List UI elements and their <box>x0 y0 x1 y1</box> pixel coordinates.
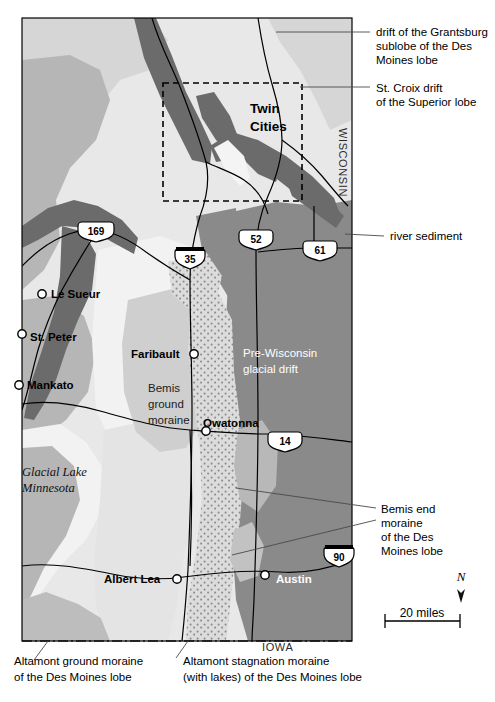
callout-line: of the Des Moines lobe <box>14 671 132 683</box>
city-label-line: Twin <box>250 101 280 116</box>
callout-line: sublobe of the Des <box>376 40 472 52</box>
city-marker-faribault[interactable] <box>190 350 198 358</box>
shield-number: 52 <box>250 234 262 245</box>
city-marker-le-sueur[interactable] <box>38 290 46 298</box>
callout-line: St. Croix drift <box>376 82 443 94</box>
unit-label-line: moraine <box>148 414 190 426</box>
shield-number: 35 <box>184 254 196 265</box>
unit-label-line: Minnesota <box>21 481 75 495</box>
city-label-st-peter: St. Peter <box>30 331 77 343</box>
shield-number: 14 <box>279 436 291 447</box>
city-marker-austin[interactable] <box>261 571 269 579</box>
city-label-mankato: Mankato <box>27 379 74 391</box>
state-label-iowa: IOWA <box>262 641 293 653</box>
shield-number: 61 <box>314 245 326 256</box>
callout-line: moraine <box>381 517 423 529</box>
callout-line: of the Superior lobe <box>376 96 476 108</box>
city-label-austin: Austin <box>276 573 312 585</box>
shield-number: 169 <box>88 226 105 237</box>
city-marker-mankato[interactable] <box>15 381 23 389</box>
callout-line: Altamont ground moraine <box>14 655 143 667</box>
city-label-faribault: Faribault <box>131 348 180 360</box>
city-marker-albert-lea[interactable] <box>173 575 181 583</box>
unit-label-line: Glacial Lake <box>22 465 87 479</box>
city-marker-st-peter[interactable] <box>18 330 26 338</box>
figure-root: drift of the Grantsburg sublobe of the D… <box>0 0 495 702</box>
callout-line: Moines lobe <box>381 545 443 557</box>
legend-callout-river-sediment: river sediment <box>390 230 463 242</box>
shield-number: 90 <box>333 552 345 563</box>
unit-label-line: Bemis <box>148 382 180 394</box>
city-label-le-sueur: Le Sueur <box>51 288 101 300</box>
callout-line: Moines lobe <box>376 54 438 66</box>
city-label-albert-lea: Albert Lea <box>104 573 161 585</box>
interstate-shield-top <box>176 247 204 251</box>
callout-line: (with lakes) of the Des Moines lobe <box>183 671 362 683</box>
city-label-line: Cities <box>250 119 287 134</box>
callout-line: river sediment <box>390 230 463 242</box>
unit-label-line: glacial drift <box>243 363 299 375</box>
callout-line: of the Des <box>381 531 434 543</box>
north-arrow-label: N <box>456 569 467 584</box>
interstate-shield-top <box>325 545 353 549</box>
unit-label-line: ground <box>148 398 184 410</box>
callout-line: Bemis end <box>381 503 435 515</box>
state-label-wisconsin: WISCONSIN <box>337 128 349 197</box>
glacial-geology-map: drift of the Grantsburg sublobe of the D… <box>0 0 495 702</box>
callout-line: Altamont stagnation moraine <box>183 655 329 667</box>
scale-bar-label: 20 miles <box>400 606 445 620</box>
map-body <box>22 18 352 641</box>
city-label-owatonna: Owatonna <box>203 417 259 429</box>
unit-label-line: Pre-Wisconsin <box>243 347 317 359</box>
callout-line: drift of the Grantsburg <box>376 26 488 38</box>
